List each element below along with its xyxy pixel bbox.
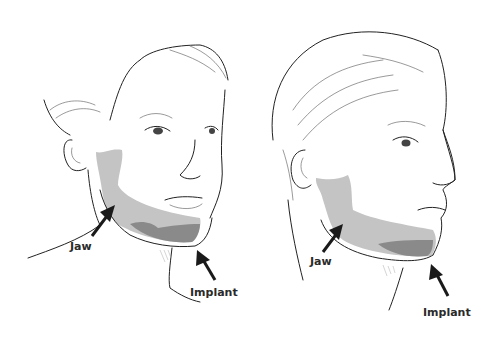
implant-arrow-right xyxy=(243,0,486,338)
implant-label: Implant xyxy=(423,306,471,319)
figure-profile: Jaw Implant xyxy=(243,0,486,338)
figure-three-quarter: Jaw Implant xyxy=(0,0,243,338)
implant-label: Implant xyxy=(190,286,238,299)
